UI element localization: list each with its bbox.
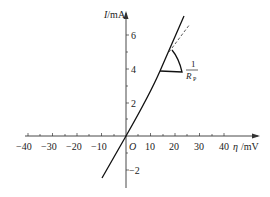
y-axis-label: I/mA [103,9,126,20]
chart: −40 −30 −20 −10 10 20 30 40 O η /mV 6 4 … [0,0,270,197]
x-tick-label: 10 [145,141,155,152]
x-tick-label: −30 [41,141,57,152]
y-tick-labels: 6 4 2 −2 [129,30,140,176]
x-tick-label: 40 [219,141,229,152]
slope-triangle [160,50,182,72]
x-tick-label: 20 [169,141,179,152]
x-axis-label-unit: /mV [241,141,260,152]
slope-numerator: 1 [191,59,196,69]
origin-label: O [129,141,136,152]
x-axis-arrow-icon [252,134,260,139]
y-tick-label: 6 [131,30,136,41]
y-tick-label: −2 [129,165,140,176]
x-tick-label: −10 [91,141,107,152]
x-tick-label: 30 [194,141,204,152]
y-tick-label: 2 [131,98,136,109]
x-tick-label: −20 [66,141,82,152]
x-axis-label-eta: η [233,141,238,152]
polarization-curve [102,16,184,178]
tangent-line [169,24,190,52]
slope-subscript: P [193,76,197,82]
y-tick-label: 4 [131,64,136,75]
x-tick-label: −40 [16,141,32,152]
slope-denominator: R [185,71,192,81]
